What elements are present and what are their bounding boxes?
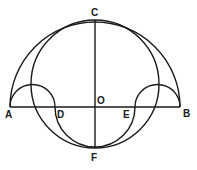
- label-o: O: [97, 95, 105, 106]
- label-b: B: [183, 108, 190, 119]
- salinon-diagram: C A B D E O F: [0, 0, 197, 170]
- label-e: E: [123, 109, 130, 120]
- label-f: F: [91, 152, 97, 163]
- label-a: A: [5, 109, 12, 120]
- label-d: D: [57, 109, 64, 120]
- label-c: C: [91, 7, 98, 18]
